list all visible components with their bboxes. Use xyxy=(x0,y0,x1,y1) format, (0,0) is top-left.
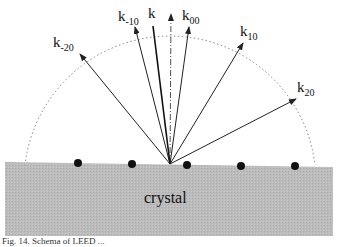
beam-k10 xyxy=(170,43,243,164)
beam-k20 xyxy=(170,99,296,164)
incident-beam xyxy=(153,26,170,164)
atom xyxy=(237,162,245,170)
label-k-incident: k xyxy=(148,5,156,21)
label-k-20: k-20 xyxy=(53,34,74,53)
atom xyxy=(128,160,136,168)
label-k-10: k-10 xyxy=(118,8,139,27)
crystal-label: crystal xyxy=(144,189,187,207)
leed-diagram: k-20 k-10 k k00 k10 k20 crystal xyxy=(0,0,338,247)
label-k20: k20 xyxy=(297,79,315,98)
beam-k-20 xyxy=(80,54,170,164)
beam-k00 xyxy=(170,27,189,164)
ewald-circle xyxy=(25,36,315,165)
surface-normal xyxy=(170,14,171,164)
label-k10: k10 xyxy=(240,23,258,42)
atom xyxy=(291,162,299,170)
label-k00: k00 xyxy=(182,7,200,26)
figure-caption: Fig. 14. Schema of LEED ... xyxy=(2,236,105,246)
beam-k-10 xyxy=(135,27,170,164)
atom xyxy=(183,161,191,169)
atom xyxy=(74,159,82,167)
